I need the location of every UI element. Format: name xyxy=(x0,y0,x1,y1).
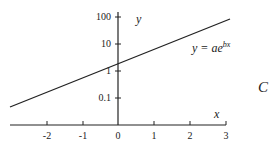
equation-label: y = aebx xyxy=(191,40,231,55)
exponential-curve xyxy=(10,19,230,107)
exponential-chart: 100 10 1 0.1 -2 -1 0 1 2 3 y x y = aebx … xyxy=(0,0,272,152)
x-axis-label: x xyxy=(213,107,220,121)
panel-label: C xyxy=(258,79,269,95)
x-tick-label--1: -1 xyxy=(79,130,87,141)
y-tick-label-100: 100 xyxy=(96,11,111,22)
x-tick-label-1: 1 xyxy=(152,130,157,141)
x-tick-label--2: -2 xyxy=(43,130,51,141)
x-tick-label-0: 0 xyxy=(116,130,121,141)
y-tick-label-0.1: 0.1 xyxy=(99,92,112,103)
y-axis-label: y xyxy=(135,12,142,26)
x-tick-label-2: 2 xyxy=(188,130,193,141)
y-tick-label-10: 10 xyxy=(101,38,111,49)
x-tick-label-3: 3 xyxy=(224,130,229,141)
